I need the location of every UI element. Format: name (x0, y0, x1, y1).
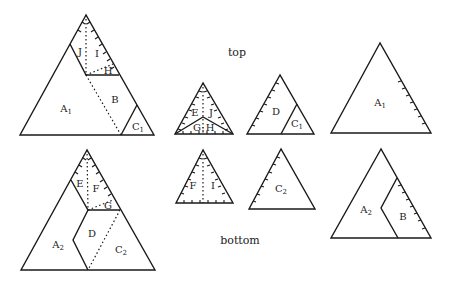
right-triangle-A1: A1 (331, 43, 431, 133)
small-triangle-EJGH: E J G : H (175, 83, 233, 134)
big-triangle-top: J I H B A1 C1 (20, 15, 154, 135)
label-J: J (77, 46, 82, 57)
small-triangle-FI: F I (176, 150, 233, 203)
right-triangle-A2B: A2 B (331, 149, 431, 238)
label-J: J (208, 107, 213, 118)
caption-bottom: bottom (220, 234, 260, 247)
label-G: G (193, 122, 201, 133)
tick-marks (78, 22, 114, 69)
tick-marks (398, 81, 425, 124)
label-C1: C1 (291, 118, 303, 131)
tick-marks (252, 83, 279, 126)
label-E: E (191, 107, 198, 118)
label-H: H (206, 122, 215, 133)
big-triangle-bottom: E F G D A2 C2 (21, 150, 155, 270)
label-I: I (95, 48, 99, 59)
label-H: H (104, 65, 113, 76)
label-A1: A1 (373, 97, 386, 110)
label-A2: A2 (51, 239, 64, 252)
triangle-dissection-diagram: J I H B A1 C1 E F G D A2 C2 (0, 0, 450, 286)
caption-top: top (228, 46, 246, 59)
label-A1: A1 (59, 103, 72, 116)
label-G: G (104, 200, 112, 211)
label-B: B (399, 211, 406, 222)
label-D: D (272, 106, 280, 117)
label-D: D (88, 228, 96, 239)
mid-triangle-C2: C2 (249, 149, 315, 209)
label-F: F (190, 180, 197, 191)
label-C1: C1 (132, 121, 144, 134)
label-I: I (211, 180, 215, 191)
label-C2: C2 (275, 183, 287, 196)
label-C2: C2 (115, 244, 127, 257)
tick-marks (398, 185, 425, 229)
label-E: E (76, 178, 83, 189)
mid-triangle-DC1: D C1 (247, 75, 314, 134)
label-B: B (111, 94, 118, 105)
label-A2: A2 (359, 204, 372, 217)
label-separator: : (201, 122, 204, 133)
label-F: F (93, 183, 100, 194)
